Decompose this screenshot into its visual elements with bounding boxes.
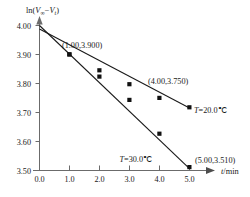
x-axis-arrowhead [206,167,215,174]
chart-figure: 3.50 3.60 3.70 3.80 3.90 4.00 0.0 1.0 2.… [0,0,250,197]
data-point-marker [157,96,161,100]
y-tick-label-3-80: 3.80 [17,80,31,89]
y-tick-label-4-00: 4.00 [17,22,31,31]
x-tick-label-3-0: 3.0 [124,175,134,184]
data-point-marker [187,165,191,169]
data-point-marker [127,98,131,102]
y-axis-arrowhead [36,16,42,25]
series-label-t30: T=30.0℃ [119,155,152,164]
x-tick-label-0-0: 0.0 [34,175,44,184]
plot-canvas: 3.50 3.60 3.70 3.80 3.90 4.00 0.0 1.0 2.… [0,0,250,197]
y-tick-label-3-90: 3.90 [17,51,31,60]
x-tick-label-1-0: 1.0 [64,175,74,184]
data-point-marker [187,105,191,109]
y-tick-label-3-70: 3.70 [17,109,31,118]
data-point-marker [97,75,101,79]
series-label-t20-value: =20.0℃ [199,106,227,115]
x-tick-label-5-0: 5.0 [184,175,194,184]
y-axis [36,16,42,171]
x-axis-title: t/min [221,167,239,176]
x-tick-marks [40,166,190,171]
y-tick-label-3-60: 3.60 [17,138,31,147]
y-tick-label-3-50: 3.50 [17,167,31,176]
x-tick-label-4-0: 4.0 [154,175,164,184]
data-point-marker [67,52,71,56]
annotation-point-1: (1.00,3.900) [62,41,103,50]
annotation-point-2: (4.00,3.750) [148,77,189,86]
x-tick-label-2-0: 2.0 [94,175,104,184]
y-tick-marks [36,26,40,171]
y-axis-title-prefix: ln( [26,6,36,15]
data-point-marker [157,132,161,136]
data-point-marker [127,82,131,86]
x-axis-title-unit: /min [223,167,239,176]
series-label-t30-value: =30.0℃ [124,155,152,164]
series-label-t20: T=20.0℃ [194,106,227,115]
y-axis-title-suffix: ) [56,6,59,15]
annotation-point-3: (5.00,3.510) [195,156,236,165]
data-point-marker [97,68,101,72]
y-axis-title: ln(V∞−Vt) [26,6,59,16]
